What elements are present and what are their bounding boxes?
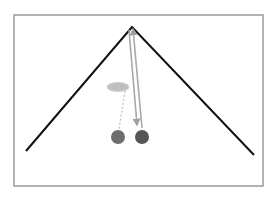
pendulum-ramp-diagram (0, 0, 274, 204)
left-ball (111, 130, 125, 144)
diagram-canvas (0, 0, 274, 204)
balls (111, 130, 149, 144)
dashed-to-left-ball (119, 91, 125, 129)
string-lines (119, 29, 142, 129)
diagram-frame (14, 15, 263, 186)
right-ball (135, 130, 149, 144)
string-to-right-ball (129, 30, 137, 125)
swing-ellipse (107, 83, 129, 92)
string-up-arrow (133, 29, 142, 128)
